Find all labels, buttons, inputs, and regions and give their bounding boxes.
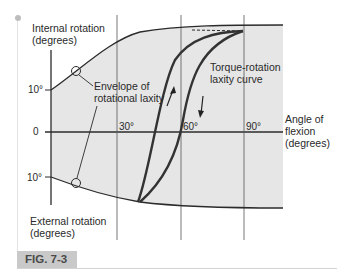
y-tick-zero: 0: [33, 126, 39, 137]
x-tick-60: 60°: [183, 121, 198, 132]
y-axis-top-label: Internal rotation: [32, 22, 105, 34]
y-tick-external-10: 10°: [27, 172, 42, 183]
laxity-envelope-shading: [51, 25, 283, 208]
x-axis-label-line2: flexion: [285, 125, 315, 137]
figure-label-badge: FIG. 7-3: [17, 251, 77, 268]
y-axis-bottom-label: External rotation: [30, 215, 106, 227]
y-tick-internal-10: 10°: [28, 84, 43, 95]
curve-annotation-line1: Torque-rotation: [210, 61, 281, 73]
envelope-annotation-line2: rotational laxity: [94, 92, 164, 104]
x-tick-30: 30°: [119, 121, 134, 132]
y-axis-top-unit: (degrees): [32, 34, 77, 46]
y-axis-bottom-unit: (degrees): [30, 227, 75, 239]
x-tick-90: 90°: [246, 121, 261, 132]
curve-annotation-line2: laxity curve: [210, 73, 263, 85]
envelope-annotation-line1: Envelope of: [94, 80, 149, 92]
x-axis-label-line1: Angle of: [285, 113, 324, 125]
bottom-divider: [17, 268, 337, 269]
x-axis-label-line3: (degrees): [285, 137, 330, 149]
